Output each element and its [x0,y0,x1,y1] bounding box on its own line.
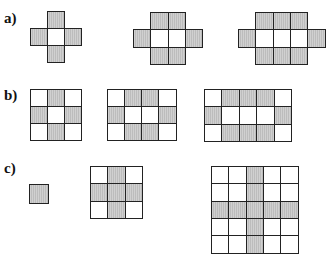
shaded-square [141,123,159,141]
shaded-square [221,124,240,143]
white-square [274,124,293,143]
shaded-square [47,45,65,63]
shaded-square [107,166,126,185]
white-square [158,123,176,141]
shaded-square [263,201,282,220]
shaded-square [64,106,82,124]
shaded-square [107,183,126,202]
shaded-square [204,106,223,125]
shaded-square [273,12,292,31]
white-square [204,89,223,108]
shaded-square [211,201,230,220]
shaded-square [124,123,142,141]
white-square [125,166,144,185]
white-square [204,124,223,143]
white-square [211,183,230,202]
shaded-square [125,183,144,202]
shaded-square [290,12,309,31]
row-label-c: c) [4,161,16,176]
white-square [30,123,48,141]
shaded-square [246,183,265,202]
shaded-square [150,47,169,66]
row-label-a: a) [4,11,17,26]
shaded-square [29,184,49,204]
white-square [158,89,176,107]
white-square [228,218,247,237]
shaded-square [30,28,48,46]
shaded-square [107,106,125,124]
white-square [280,218,299,237]
white-square [211,218,230,237]
white-square [107,123,125,141]
white-square [64,89,82,107]
white-square [90,166,109,185]
white-square [150,29,169,48]
white-square [47,28,65,46]
shaded-square [246,166,265,185]
shaded-square [273,47,292,66]
white-square [228,166,247,185]
white-square [47,106,65,124]
white-square [64,123,82,141]
shaded-square [246,235,265,254]
shaded-square [90,183,109,202]
white-square [168,29,187,48]
shaded-square [168,12,187,31]
shaded-square [47,123,65,141]
white-square [263,183,282,202]
white-square [228,183,247,202]
white-square [90,201,109,220]
white-square [255,29,274,48]
white-square [30,89,48,107]
shaded-square [30,106,48,124]
white-square [221,106,240,125]
shaded-square [256,89,275,108]
white-square [263,166,282,185]
shaded-square [307,29,326,48]
shaded-square [246,218,265,237]
shaded-square [185,29,204,48]
shaded-square [107,201,126,220]
shaded-square [141,89,159,107]
shaded-square [239,89,258,108]
shaded-square [255,47,274,66]
white-square [125,201,144,220]
shaded-square [124,89,142,107]
white-square [211,166,230,185]
shaded-square [133,29,152,48]
white-square [124,106,142,124]
shaded-square [47,89,65,107]
white-square [256,106,275,125]
white-square [273,29,292,48]
shaded-square [64,28,82,46]
shaded-square [238,29,257,48]
shaded-square [158,106,176,124]
white-square [280,183,299,202]
shaded-square [274,106,293,125]
white-square [228,235,247,254]
white-square [141,106,159,124]
white-square [107,89,125,107]
row-label-b: b) [4,88,17,103]
shaded-square [150,12,169,31]
shaded-square [47,11,65,29]
shaded-square [256,124,275,143]
white-square [239,106,258,125]
white-square [263,218,282,237]
shaded-square [221,89,240,108]
white-square [280,235,299,254]
white-square [280,166,299,185]
white-square [274,89,293,108]
shaded-square [280,201,299,220]
shaded-square [255,12,274,31]
white-square [263,235,282,254]
shaded-square [239,124,258,143]
white-square [290,29,309,48]
shaded-square [246,201,265,220]
shaded-square [228,201,247,220]
white-square [211,235,230,254]
shaded-square [290,47,309,66]
shaded-square [168,47,187,66]
